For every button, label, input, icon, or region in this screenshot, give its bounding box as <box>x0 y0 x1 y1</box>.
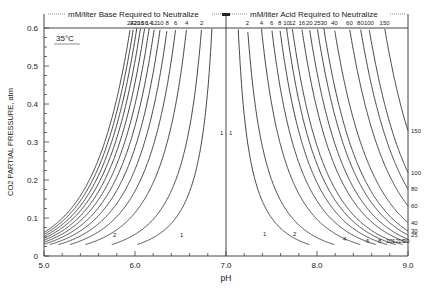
y-tick-label: 0.1 <box>27 214 39 223</box>
top-curve-label: 10 <box>157 20 164 26</box>
top-label-acid: mM/liter Acid Required to Neutralize <box>250 10 378 19</box>
bottom-curve-label: 1 <box>180 232 184 238</box>
bottom-curve-label: 1 <box>263 231 267 237</box>
base-curve-1 <box>137 29 212 245</box>
y-tick-label: 0.5 <box>27 62 39 71</box>
x-tick-label: 8.0 <box>311 261 323 270</box>
y-axis-tick-labels: 00.10.20.30.40.50.6 <box>27 24 39 261</box>
y-tick-label: 0.2 <box>27 176 39 185</box>
top-label-base: mM/liter Base Required to Neutralize <box>68 10 199 19</box>
top-curve-label: 8 <box>278 20 282 26</box>
neutral-marker <box>222 13 230 16</box>
top-curve-label: 20 <box>306 20 313 26</box>
acid-curve-1 <box>238 29 309 244</box>
top-curve-label: 16 <box>298 20 305 26</box>
y-tick-label: 0 <box>34 252 39 261</box>
right-curve-label: 40 <box>411 220 418 226</box>
top-curve-label: 6 <box>174 20 178 26</box>
x-tick-label: 7.0 <box>220 261 232 270</box>
top-curve-label: 6 <box>270 20 274 26</box>
y-axis-label: CO2 PARTIAL PRESSURE, atm <box>6 88 15 196</box>
curve-side-labels: 150100806040302512468101216202111 <box>113 128 422 244</box>
right-curve-label: 80 <box>411 186 418 192</box>
top-curve-label: 60 <box>346 20 353 26</box>
x-axis-label: pH <box>221 273 232 283</box>
x-axis-tick-labels: 5.06.07.08.09.0 <box>38 261 414 270</box>
base-curve-12 <box>44 30 154 245</box>
top-curve-label: 150 <box>380 20 391 26</box>
bottom-curve-label: 4 <box>343 236 347 242</box>
acid-curve-60 <box>350 30 408 206</box>
y-tick-label: 0.4 <box>27 100 39 109</box>
top-curve-label: 12 <box>289 20 296 26</box>
base-curve-22 <box>44 30 133 235</box>
top-curve-label: 2 <box>200 20 204 26</box>
bottom-curve-label: 2 <box>113 232 117 238</box>
top-curve-label: 100 <box>364 20 375 26</box>
top-curve-label: 4 <box>260 20 264 26</box>
center-curve-label: 1 <box>220 130 224 136</box>
x-tick-label: 6.0 <box>129 261 141 270</box>
center-curve-label: 1 <box>229 130 233 136</box>
top-curve-label: 4 <box>185 20 189 26</box>
acid-curve-16 <box>302 30 408 243</box>
bottom-curve-label: 20 <box>403 238 410 244</box>
x-tick-label: 9.0 <box>402 261 414 270</box>
right-curve-label: 25 <box>411 232 418 238</box>
top-curve-label: 8 <box>166 20 170 26</box>
right-curve-label: 60 <box>411 203 418 209</box>
co2-ph-neutralization-chart: mM/liter Base Required to Neutralize mM/… <box>0 0 436 298</box>
base-curve-18 <box>44 29 141 239</box>
bottom-curve-label: 6 <box>366 238 370 244</box>
base-curve-2 <box>112 30 202 245</box>
bottom-curve-label: 2 <box>293 231 297 237</box>
right-curve-label: 150 <box>411 128 422 134</box>
x-tick-label: 5.0 <box>38 261 50 270</box>
y-tick-label: 0.3 <box>27 138 39 147</box>
y-tick-label: 0.6 <box>27 24 39 33</box>
temperature-annotation: 35°C <box>56 34 74 43</box>
top-curve-label: 2 <box>246 20 250 26</box>
right-curve-label: 100 <box>411 170 422 176</box>
base-curve-6 <box>70 30 176 244</box>
base-curve-16 <box>44 29 145 241</box>
top-curve-label: 30 <box>320 20 327 26</box>
acid-curve-150 <box>385 29 408 131</box>
curve-top-labels: 2422201816141210864224681012162025304060… <box>127 20 390 26</box>
top-curve-label: 40 <box>331 20 338 26</box>
